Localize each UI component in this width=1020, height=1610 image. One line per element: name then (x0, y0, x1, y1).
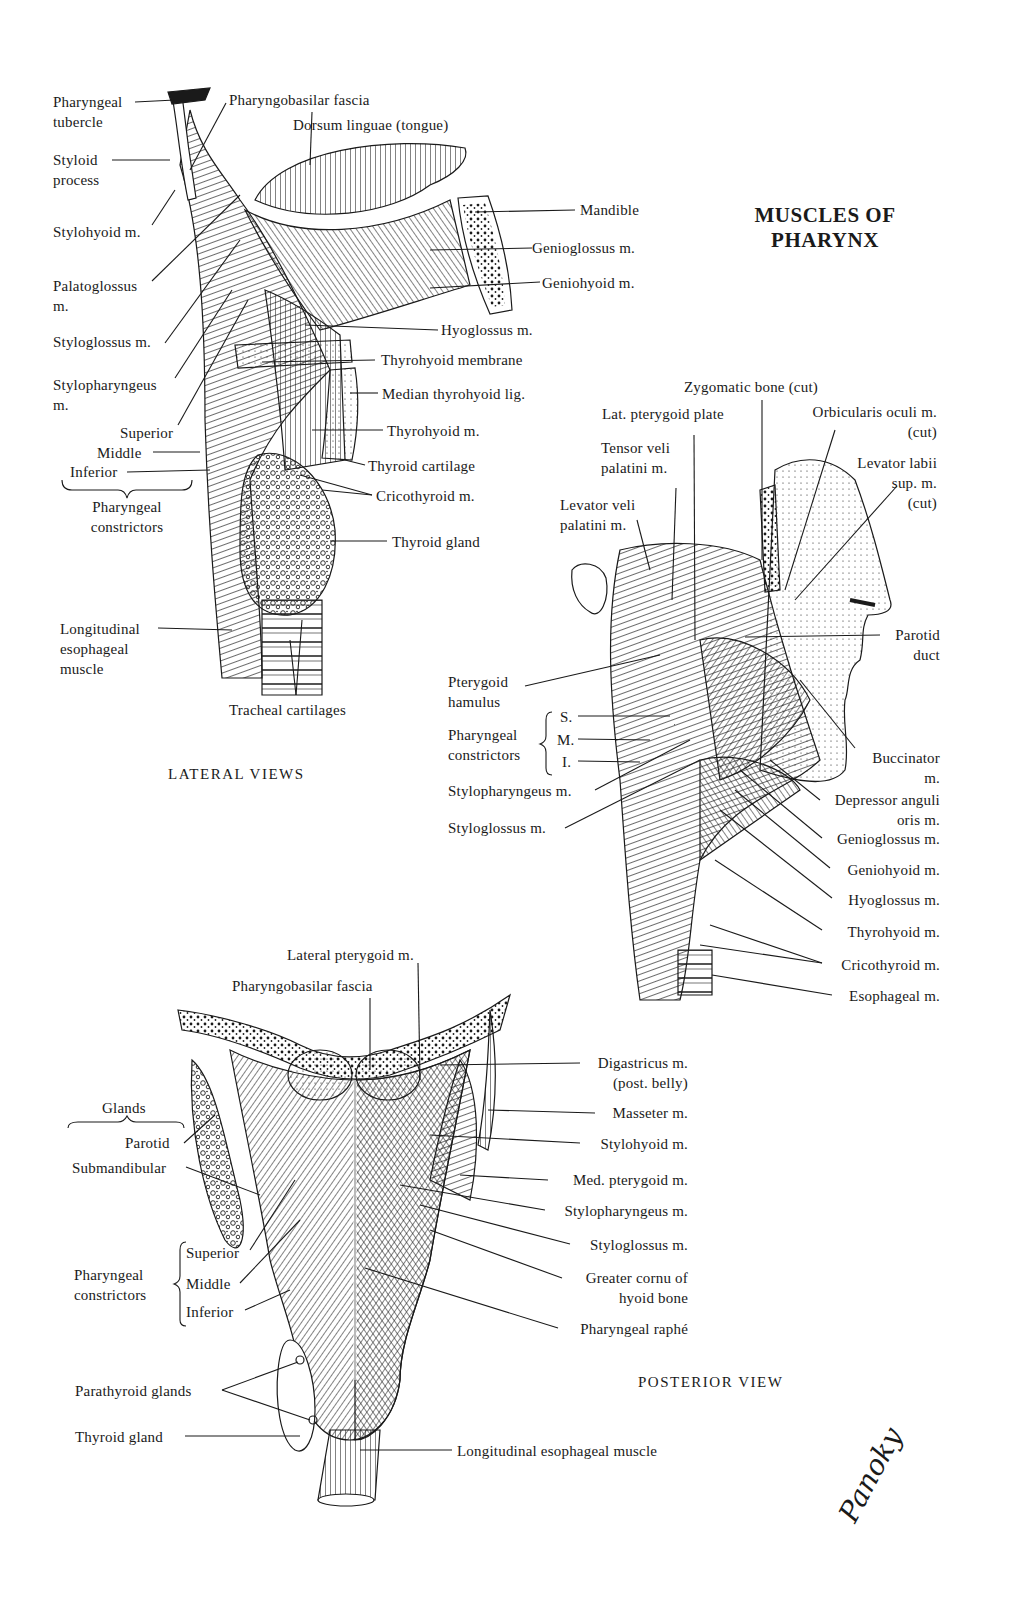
label-face-genioglossus: Genioglossus m. (800, 829, 940, 849)
label-longitudinal-esophageal-muscle: Longitudinal esophageal muscle (60, 619, 140, 679)
caption-posterior-view: POSTERIOR VIEW (638, 1374, 783, 1391)
label-tracheal-cartilages: Tracheal cartilages (229, 700, 346, 720)
label-palatoglossus: Palatoglossus m. (53, 276, 137, 316)
label-face-stylopharyngeus: Stylopharyngeus m. (448, 781, 572, 801)
label-thyrohyoid-membrane: Thyrohyoid membrane (381, 350, 523, 370)
label-hyoglossus: Hyoglossus m. (441, 320, 533, 340)
label-styloglossus: Styloglossus m. (53, 332, 151, 352)
label-med-pterygoid: Med. pterygoid m. (540, 1170, 688, 1190)
label-orbicularis-oculi: Orbicularis oculi m. (cut) (775, 402, 937, 442)
label-pharyngeal-constrictors: Pharyngeal constrictors (62, 497, 192, 537)
label-post-middle: Middle (186, 1274, 231, 1294)
label-inferior-constrictor: Inferior (70, 462, 117, 482)
label-pharyngobasilar-fascia: Pharyngobasilar fascia (229, 90, 370, 110)
label-post-inferior: Inferior (186, 1302, 233, 1322)
label-post-superior: Superior (186, 1243, 239, 1263)
label-mandible: Mandible (580, 200, 639, 220)
label-middle-constrictor: Middle (97, 443, 142, 463)
label-submandibular: Submandibular (72, 1158, 166, 1178)
label-post-thyroid-gland: Thyroid gland (75, 1427, 163, 1447)
label-face-styloglossus: Styloglossus m. (448, 818, 546, 838)
label-face-pharyngeal-constrictors: Pharyngeal constrictors (448, 725, 520, 765)
label-face-geniohyoid: Geniohyoid m. (800, 860, 940, 880)
label-pharyngeal-raphe: Pharyngeal raphé (540, 1319, 688, 1339)
label-glands: Glands (102, 1098, 146, 1118)
label-stylopharyngeus: Stylopharyngeus m. (53, 375, 157, 415)
label-pharyngeal-tubercle: Pharyngeal tubercle (53, 92, 122, 132)
label-face-thyrohyoid: Thyrohyoid m. (800, 922, 940, 942)
label-median-thyrohyoid-lig: Median thyrohyoid lig. (382, 384, 525, 404)
label-levator-labii: Levator labii sup. m. (cut) (820, 453, 937, 513)
label-i-constrictor: I. (562, 752, 571, 772)
label-post-styloglossus: Styloglossus m. (540, 1235, 688, 1255)
label-buccinator: Buccinator m. (840, 748, 940, 788)
label-superior-constrictor: Superior (120, 423, 173, 443)
label-face-hyoglossus: Hyoglossus m. (800, 890, 940, 910)
label-levator-veli-palatini: Levator veli palatini m. (560, 495, 635, 535)
label-thyroid-gland: Thyroid gland (392, 532, 480, 552)
label-thyrohyoid-m: Thyrohyoid m. (387, 421, 480, 441)
label-lateral-pterygoid: Lateral pterygoid m. (287, 945, 414, 965)
label-parotid: Parotid (125, 1133, 170, 1153)
label-post-pharyngobasilar-fascia: Pharyngobasilar fascia (232, 976, 373, 996)
label-m-constrictor: M. (557, 730, 575, 750)
label-post-stylohyoid: Stylohyoid m. (540, 1134, 688, 1154)
label-masseter: Masseter m. (540, 1103, 688, 1123)
label-digastricus: Digastricus m. (post. belly) (540, 1053, 688, 1093)
label-greater-cornu-hyoid: Greater cornu of hyoid bone (540, 1268, 688, 1308)
label-zygomatic-bone: Zygomatic bone (cut) (684, 377, 818, 397)
label-genioglossus: Genioglossus m. (532, 238, 635, 258)
label-post-stylopharyngeus: Stylopharyngeus m. (520, 1201, 688, 1221)
label-lat-pterygoid-plate: Lat. pterygoid plate (602, 404, 724, 424)
face-lateral-drawing (572, 460, 891, 1000)
label-parotid-duct: Parotid duct (840, 625, 940, 665)
label-stylohyoid: Stylohyoid m. (53, 222, 141, 242)
label-tensor-veli-palatini: Tensor veli palatini m. (601, 438, 670, 478)
label-face-cricothyroid: Cricothyroid m. (800, 955, 940, 975)
page-title: MUSCLES OF PHARYNX (735, 203, 915, 253)
label-post-pharyngeal-constrictors: Pharyngeal constrictors (74, 1265, 146, 1305)
label-cricothyroid: Cricothyroid m. (376, 486, 475, 506)
label-geniohyoid: Geniohyoid m. (542, 273, 635, 293)
label-pterygoid-hamulus: Pterygoid hamulus (448, 672, 508, 712)
label-dorsum-linguae: Dorsum linguae (tongue) (293, 115, 448, 135)
label-s-constrictor: S. (560, 707, 573, 727)
title-line-2: PHARYNX (735, 228, 915, 253)
label-post-longitudinal-esophageal: Longitudinal esophageal muscle (457, 1441, 657, 1461)
label-depressor-anguli-oris: Depressor anguli oris m. (800, 790, 940, 830)
title-line-1: MUSCLES OF (735, 203, 915, 228)
label-thyroid-cartilage: Thyroid cartilage (368, 456, 475, 476)
label-esophageal-m: Esophageal m. (800, 986, 940, 1006)
label-parathyroid-glands: Parathyroid glands (75, 1381, 192, 1401)
caption-lateral-views: LATERAL VIEWS (168, 766, 305, 783)
label-styloid-process: Styloid process (53, 150, 99, 190)
